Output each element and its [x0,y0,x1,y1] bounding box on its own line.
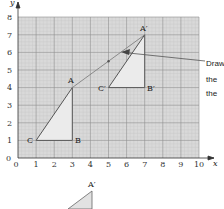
label-c-prime: C′ [98,84,106,93]
svg-text:7: 7 [7,31,12,40]
svg-text:0: 0 [13,160,18,169]
svg-text:10: 10 [194,160,204,169]
y-tick-labels: 0 1 2 3 4 5 6 7 8 [6,13,12,163]
svg-text:3: 3 [7,101,12,110]
x-axis-label: x [213,159,218,168]
svg-text:1: 1 [7,136,12,145]
label-b: B [75,136,81,145]
svg-text:9: 9 [178,160,183,169]
midpoint-marker [107,60,109,62]
translation-diagram: x y 0 1 2 3 4 5 6 7 8 9 10 0 1 2 3 4 5 6… [0,0,224,209]
svg-text:7: 7 [142,160,147,169]
annotation-line-2: the [206,75,218,84]
svg-text:6: 6 [7,48,12,57]
svg-text:8: 8 [160,160,165,169]
y-axis-label: y [9,0,15,7]
label-c: C [27,136,33,145]
svg-text:3: 3 [70,160,75,169]
label-a: A [67,76,74,85]
svg-text:2: 2 [7,119,12,128]
label-b-prime: B′ [147,84,155,93]
svg-text:2: 2 [52,160,57,169]
svg-text:5: 5 [7,66,12,75]
svg-text:1: 1 [34,160,39,169]
svg-text:6: 6 [124,160,129,169]
partial-triangle [68,191,92,209]
svg-text:4: 4 [7,83,12,92]
svg-text:0: 0 [6,154,11,163]
svg-text:4: 4 [88,160,93,169]
label-a-prime: A′ [139,24,148,33]
svg-text:5: 5 [106,160,111,169]
annotation-line-1: Draw [206,59,224,68]
annotation-line-3: the [206,89,218,98]
svg-text:8: 8 [7,13,12,22]
x-tick-labels: 0 1 2 3 4 5 6 7 8 9 10 [13,160,204,169]
partial-figure-label: A′ [87,180,96,189]
